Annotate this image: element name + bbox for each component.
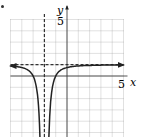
x-tick-5: 5 xyxy=(118,78,125,91)
graph: y 5 5 x xyxy=(0,0,145,137)
axes xyxy=(11,6,128,137)
x-axis-label: x xyxy=(130,76,137,89)
y-tick-5: 5 xyxy=(57,15,64,28)
